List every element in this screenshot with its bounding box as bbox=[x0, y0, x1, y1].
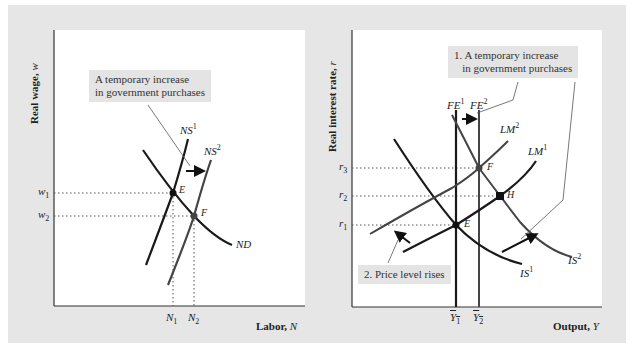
right-x-axis-label: Output, Y bbox=[553, 320, 599, 332]
nd-label: ND bbox=[236, 238, 251, 250]
left-point-f-label: F bbox=[201, 207, 207, 218]
nd-curve bbox=[143, 150, 232, 245]
left-point-f bbox=[191, 213, 198, 220]
is-shift-arrow bbox=[502, 235, 535, 252]
right-callout-2: 2. Price level rises bbox=[358, 265, 451, 284]
right-point-f bbox=[476, 165, 483, 172]
right-callout1-leader-is bbox=[521, 82, 575, 239]
lm2-curve bbox=[370, 141, 508, 234]
tick-w2: w2 bbox=[38, 208, 49, 223]
tick-n1: N1 bbox=[166, 311, 177, 326]
tick-y1: Y1 bbox=[450, 311, 460, 326]
right-guides bbox=[352, 168, 500, 225]
tick-n2: N2 bbox=[188, 311, 199, 326]
is1-curve bbox=[394, 139, 522, 264]
is1-label: IS1 bbox=[520, 265, 533, 279]
ns2-label: NS2 bbox=[204, 143, 221, 157]
fe1-label: FE1 bbox=[447, 97, 464, 111]
tick-y2: Y2 bbox=[473, 311, 483, 326]
is2-label: IS2 bbox=[568, 252, 581, 266]
right-point-e-label: E bbox=[464, 218, 470, 229]
lm1-label: LM1 bbox=[528, 143, 547, 157]
lm2-label: LM2 bbox=[500, 121, 519, 135]
ns1-label: NS1 bbox=[180, 122, 197, 136]
tick-w1: w1 bbox=[38, 185, 49, 200]
tick-r1: r1 bbox=[339, 217, 347, 232]
ns2-curve bbox=[168, 160, 211, 285]
right-point-e bbox=[453, 222, 460, 229]
right-y-axis-label: Real interest rate, r bbox=[326, 61, 338, 152]
fe2-label: FE2 bbox=[470, 97, 487, 111]
tick-r2: r2 bbox=[339, 188, 347, 203]
lm-shift-arrow bbox=[397, 233, 410, 243]
left-x-axis-label: Labor, N bbox=[256, 320, 297, 332]
tick-r3: r3 bbox=[339, 160, 347, 175]
left-callout: A temporary increase in government purch… bbox=[89, 70, 211, 102]
right-callout2-leader bbox=[388, 240, 398, 263]
left-point-e bbox=[170, 190, 177, 197]
right-point-h bbox=[496, 192, 504, 200]
right-point-f-label: F bbox=[487, 161, 493, 172]
left-guides bbox=[54, 193, 194, 306]
right-callout-1: 1. A temporary increase in government pu… bbox=[448, 46, 578, 78]
left-point-e-label: E bbox=[179, 184, 185, 195]
right-point-h-label: H bbox=[507, 189, 514, 200]
left-y-axis-label: Real wage, w bbox=[28, 63, 40, 124]
